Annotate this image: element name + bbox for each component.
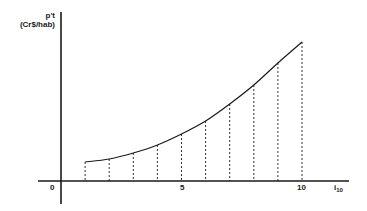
x-tick-10: 10 (297, 184, 306, 192)
y-axis-unit: (Cr$/hab) (20, 21, 55, 29)
chart-area: p't (Cr$/hab) 0 5 10 i10 (0, 0, 367, 211)
drop-lines (85, 42, 302, 181)
plot-svg (0, 0, 367, 211)
y-axis-label: p't (46, 12, 55, 20)
data-curve (85, 42, 302, 162)
x-tick-5: 5 (180, 184, 184, 192)
x-axis-label: i10 (334, 184, 343, 193)
x-tick-0: 0 (50, 184, 54, 192)
